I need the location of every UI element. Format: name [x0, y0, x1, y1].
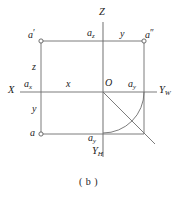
axis-label-yw: YW — [159, 85, 171, 97]
origin-label: O — [105, 78, 112, 88]
axis-label-z: Z — [99, 7, 105, 18]
point-marker-a-top — [39, 132, 43, 136]
figure-container: X Z YW YH O a′ a″ a ax az ay ay z y x — [0, 0, 177, 199]
point-label-ax: ax — [24, 79, 32, 91]
point-marker-a-front — [39, 39, 43, 43]
figure-caption: ( b ) — [0, 176, 177, 187]
dimension-label-y-top: y — [120, 29, 124, 39]
axis-label-yh: YH — [92, 146, 103, 158]
dimension-label-z: z — [32, 62, 36, 72]
point-label-ay-right: ay — [128, 79, 136, 91]
dimension-label-y-left: y — [32, 104, 36, 114]
point-label-a-front: a′ — [28, 29, 35, 40]
point-label-a-side: a″ — [145, 29, 154, 40]
point-label-ay-bottom: ay — [88, 133, 96, 145]
axis-label-x: X — [8, 85, 14, 96]
point-label-az: az — [87, 28, 95, 40]
bisector-line — [103, 92, 155, 144]
dimension-label-x: x — [66, 79, 70, 89]
point-label-a-top: a — [30, 128, 35, 138]
